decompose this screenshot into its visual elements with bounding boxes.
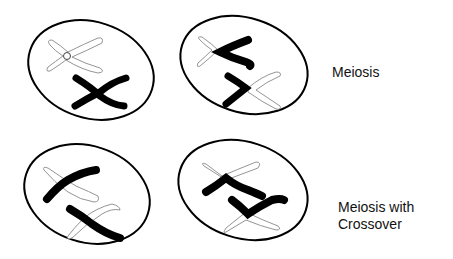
light-chromosome-icon: [47, 38, 103, 73]
light-recombined-chromatids-icon: [202, 162, 279, 233]
dark-chromatids-icon: [220, 40, 251, 104]
crossover-cell-2: [165, 124, 320, 256]
dark-chromosome-icon: [75, 78, 126, 106]
crossover-label-line1: Meiosis with: [338, 199, 414, 216]
crossover-cell-1: [11, 129, 162, 259]
light-chromosomes-icon: [44, 167, 121, 238]
dark-recombined-chromatids-icon: [206, 178, 284, 214]
meiosis-cell-1: [15, 5, 166, 136]
meiosis-label: Meiosis: [332, 64, 379, 81]
crossover-label-line2: Crossover: [338, 216, 402, 233]
meiosis-cell-2: [168, 0, 321, 130]
